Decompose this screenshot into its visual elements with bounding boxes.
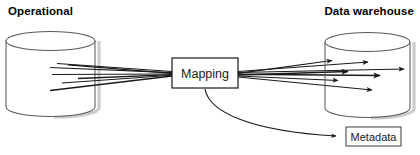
diagram-canvas: Operational Data warehouse Mapping: [0, 0, 420, 155]
heading-operational: Operational: [8, 5, 73, 17]
source-to-mapping-edge: [52, 74, 172, 75]
mapping-box[interactable]: Mapping: [172, 58, 238, 88]
mapping-box-label: Mapping: [181, 67, 229, 81]
source-database-top: [6, 32, 95, 51]
target-database-top: [325, 33, 410, 52]
data-warehouse-mapping-diagram: Operational Data warehouse Mapping: [0, 0, 420, 155]
target-database-body: [325, 42, 410, 118]
metadata-box-label: Metadata: [351, 131, 398, 143]
heading-data-warehouse: Data warehouse: [324, 5, 414, 17]
metadata-box[interactable]: Metadata: [346, 127, 401, 146]
mapping-to-target-edges: [238, 61, 404, 91]
target-database-shadow: [371, 42, 414, 118]
mapping-to-metadata-edge: [205, 89, 336, 136]
